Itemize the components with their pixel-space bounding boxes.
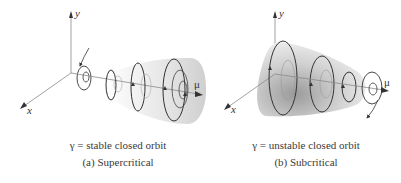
- y-axis-arrow-icon: [69, 11, 73, 18]
- panel-b-diagram: y x μ: [224, 7, 390, 118]
- x-axis-arrow-icon: [20, 102, 27, 109]
- x-axis: [24, 73, 71, 106]
- panel-b-title: (b) Subcritical: [266, 156, 346, 168]
- panel-b-orbit-caption: γ = unstable closed orbit: [246, 139, 366, 151]
- mu-axis-label: μ: [194, 78, 200, 90]
- y-axis-label: y: [74, 7, 80, 19]
- x-axis-label: x: [230, 103, 236, 115]
- panel-a-title: (a) Supercritical: [73, 156, 163, 168]
- y-axis-arrow-icon: [273, 11, 277, 18]
- spiral-inner: [83, 72, 89, 82]
- panel-a-orbit-caption: γ = stable closed orbit: [63, 139, 173, 151]
- mu-axis-label: μ: [384, 76, 390, 88]
- stable-orbit-surface: [104, 58, 207, 124]
- x-axis-arrow-icon: [224, 103, 231, 110]
- x-axis-label: x: [26, 104, 32, 116]
- y-axis-label: y: [278, 7, 284, 19]
- panel-a-diagram: y x μ: [20, 7, 206, 124]
